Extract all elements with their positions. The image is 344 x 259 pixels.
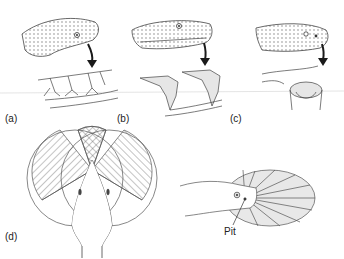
nerve-endings-a: [38, 70, 118, 108]
labial-pits-b: [140, 70, 222, 116]
panel-label-b: (b): [117, 113, 129, 124]
snake-head-a: [22, 18, 99, 56]
pit-receptive-field: [180, 170, 315, 226]
panel-label-c: (c): [230, 113, 242, 124]
panel-label-a: (a): [5, 113, 17, 124]
pit-label: Pit: [224, 226, 236, 237]
arrow-c: [322, 44, 324, 60]
snake-head-c: [256, 24, 328, 52]
figure: (a) (b): [0, 0, 344, 259]
snake-head-b: [132, 21, 212, 49]
arrow-b: [204, 43, 206, 60]
pit-organ-c: [262, 66, 322, 110]
arrow-a: [88, 44, 92, 62]
panel-label-d: (d): [5, 231, 17, 242]
figure-drawing: (a) (b): [0, 0, 344, 259]
